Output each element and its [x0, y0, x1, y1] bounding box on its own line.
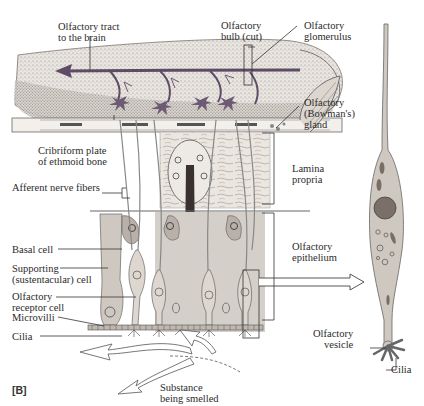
- label-olfactory-glomerulus: Olfactory glomerulus: [304, 20, 351, 42]
- label-microvilli: Microvilli: [12, 312, 55, 323]
- label-basal-cell: Basal cell: [12, 244, 53, 255]
- label-olfactory-vesicle: Olfactory vesicle: [313, 328, 353, 350]
- label-cilia-left: Cilia: [12, 331, 32, 342]
- label-lamina-propria: Lamina propria: [292, 163, 324, 185]
- label-olfactory-tract: Olfactory tract to the brain: [58, 21, 120, 43]
- label-olfactory-bulb: Olfactory bulb (cut): [221, 20, 262, 42]
- magnify-arrow: [259, 274, 364, 290]
- label-afferent-nerve-fibers: Afferent nerve fibers: [12, 182, 100, 193]
- label-olfactory-epithelium: Olfactory epithelium: [292, 241, 337, 263]
- label-bowmans-gland: Olfactory (Bowman's) gland: [304, 97, 355, 130]
- olfactory-diagram: [0, 0, 424, 406]
- panel-label: [B]: [12, 384, 27, 396]
- label-olfactory-receptor-cell: Olfactory receptor cell: [12, 291, 64, 313]
- label-supporting-cell: Supporting (sustentacular) cell: [12, 263, 92, 285]
- cribriform-plate: [12, 118, 342, 132]
- label-cribriform-plate: Cribriform plate of ethmoid bone: [38, 145, 107, 167]
- label-cilia-right: Cilia: [391, 364, 411, 375]
- label-substance-being-smelled: Substance being smelled: [160, 382, 219, 404]
- enlarged-receptor-cell: [370, 24, 405, 360]
- olfactory-bulb: [14, 39, 343, 120]
